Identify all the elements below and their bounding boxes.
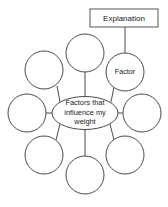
node-bottom-left[interactable] — [25, 136, 63, 174]
connector-center-to-top-right — [111, 87, 114, 102]
node-bottom[interactable] — [66, 156, 104, 194]
node-right[interactable] — [123, 94, 161, 132]
connector-center-to-bottom-left — [56, 124, 60, 140]
connector-center-to-bottom-right — [110, 124, 114, 140]
node-top[interactable] — [66, 34, 104, 72]
center-label-line-2: influence my — [64, 108, 106, 117]
center-label-line-1: Factors that — [65, 98, 104, 107]
node-bottom-right[interactable] — [106, 136, 144, 174]
spider-diagram-canvas: Factor Factors that influence my weight … — [0, 0, 168, 207]
node-top-left[interactable] — [25, 51, 63, 89]
node-left[interactable] — [8, 94, 46, 132]
explanation-box-label: Explanation — [103, 14, 145, 23]
spider-diagram-svg: Factor Factors that influence my weight … — [0, 0, 168, 207]
center-label-line-3: weight — [73, 117, 95, 126]
connector-center-to-top-left — [57, 86, 60, 102]
node-top-right-label: Factor — [115, 67, 136, 76]
